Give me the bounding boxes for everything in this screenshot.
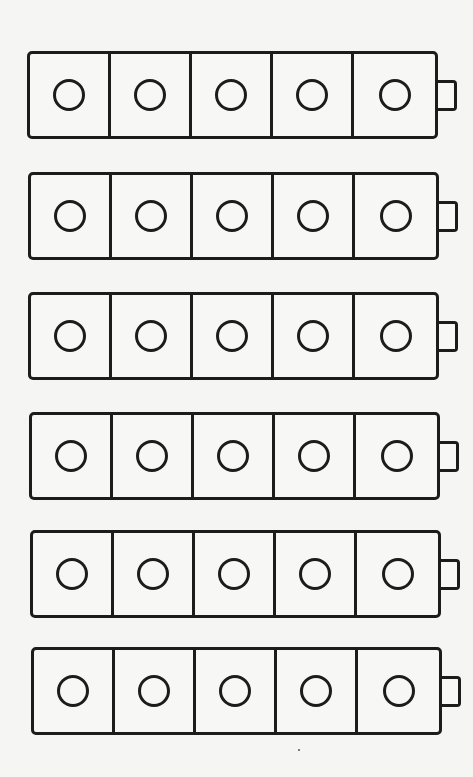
connector-nub [439,321,458,352]
circle-icon [138,675,170,707]
cube-train-3 [28,292,458,380]
cube [112,295,193,377]
cube [273,54,354,136]
cube [355,175,436,257]
cube [31,295,112,377]
circle-icon [217,440,249,472]
circle-icon [299,558,331,590]
cube [357,533,438,615]
connector-nub [440,441,459,472]
circle-icon [297,320,329,352]
circle-icon [380,200,412,232]
stray-mark [298,749,300,751]
connector-nub [439,201,458,232]
circle-icon [56,558,88,590]
cube [196,650,277,732]
circle-icon [215,79,247,111]
cube [32,415,113,497]
circle-icon [134,79,166,111]
circle-icon [216,200,248,232]
cube [30,54,111,136]
cube [354,54,435,136]
cube [33,533,114,615]
circle-icon [136,440,168,472]
cube-row [29,412,440,500]
cube [194,415,275,497]
circle-icon [54,200,86,232]
cube [115,650,196,732]
cube [275,415,356,497]
cube-train-1 [27,51,457,139]
cube [111,54,192,136]
cube [356,415,437,497]
circle-icon [55,440,87,472]
circle-icon [137,558,169,590]
connector-nub [442,676,461,707]
circle-icon [383,675,415,707]
cube [277,650,358,732]
cube [355,295,436,377]
cube [31,175,112,257]
circle-icon [219,675,251,707]
cube-train-5 [30,530,460,618]
circle-icon [216,320,248,352]
circle-icon [57,675,89,707]
circle-icon [379,79,411,111]
circle-icon [380,320,412,352]
cube [193,175,274,257]
cube-row [28,172,439,260]
cube [358,650,439,732]
cube [113,415,194,497]
circle-icon [53,79,85,111]
circle-icon [135,200,167,232]
cube-row [28,292,439,380]
cube-row [27,51,438,139]
cube [276,533,357,615]
circle-icon [218,558,250,590]
cube [192,54,273,136]
connector-nub [441,559,460,590]
cube-train-6 [31,647,461,735]
cube [193,295,274,377]
circle-icon [298,440,330,472]
cube-train-2 [28,172,458,260]
cube [34,650,115,732]
circle-icon [382,558,414,590]
connector-nub [438,80,457,111]
circle-icon [296,79,328,111]
cube-row [30,530,441,618]
cube [274,175,355,257]
circle-icon [297,200,329,232]
cube [195,533,276,615]
circle-icon [381,440,413,472]
cube [112,175,193,257]
circle-icon [54,320,86,352]
cube [114,533,195,615]
cube [274,295,355,377]
circle-icon [135,320,167,352]
cube-row [31,647,442,735]
cube-train-4 [29,412,459,500]
circle-icon [300,675,332,707]
